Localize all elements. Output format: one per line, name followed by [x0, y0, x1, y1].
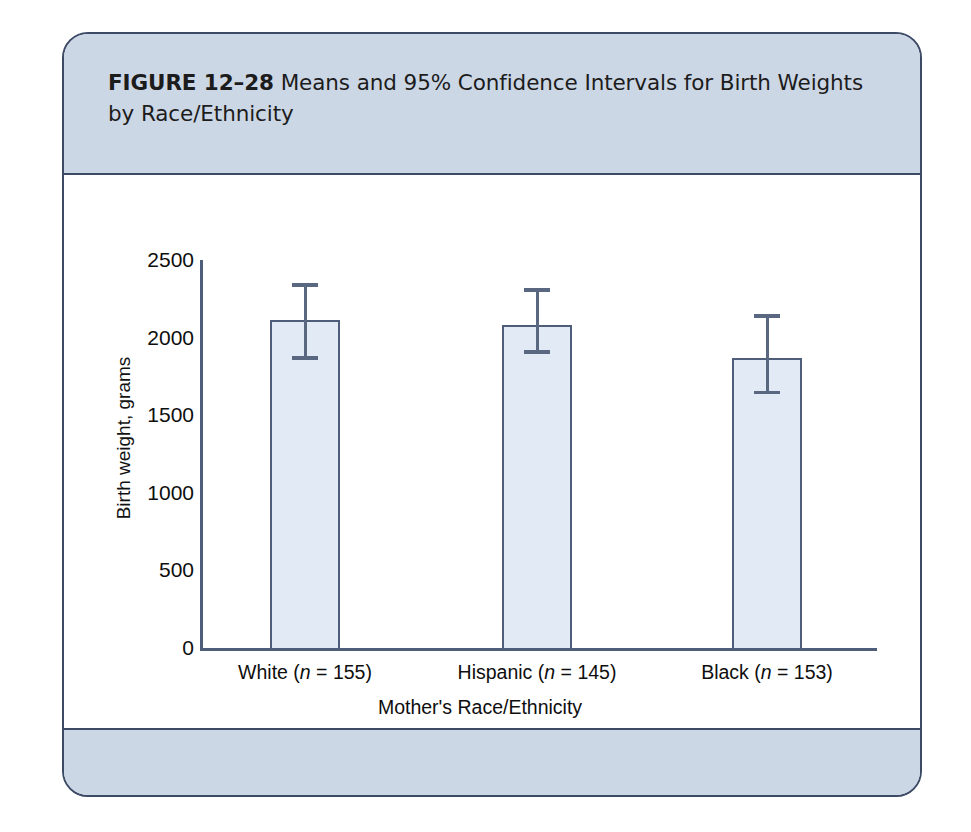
error-bar-cap-upper-black — [754, 314, 780, 318]
y-axis-line — [200, 260, 203, 650]
error-bar-line-black — [766, 315, 769, 392]
y-tick-500: 500 — [124, 558, 194, 582]
x-tick-label-white-paren-open: ( — [288, 661, 300, 683]
x-axis-label: Mother's Race/Ethnicity — [378, 696, 582, 718]
chart-plot-region: Birth weight, grams 2500 2000 1500 1000 … — [64, 175, 920, 730]
bar-hispanic[interactable] — [502, 325, 572, 648]
x-tick-label-white-n: n — [300, 661, 311, 683]
y-tick-1000: 1000 — [124, 481, 194, 505]
x-tick-label-white: White (n = 155) — [238, 661, 372, 684]
x-tick-label-hispanic-paren-open: ( — [532, 661, 544, 683]
bar-black[interactable] — [732, 358, 802, 648]
x-axis-label-wrapper: Mother's Race/Ethnicity — [64, 696, 920, 719]
x-tick-label-hispanic-n-value: = 145) — [555, 661, 616, 683]
figure-number-label: FIGURE 12–28 — [108, 70, 274, 95]
bar-white[interactable] — [270, 320, 340, 648]
y-tick-2500: 2500 — [124, 248, 194, 272]
x-tick-label-white-name: White — [238, 661, 288, 683]
error-bar-line-hispanic — [536, 290, 539, 353]
y-axis-tick-labels: 2500 2000 1500 1000 500 0 — [122, 175, 194, 730]
error-bar-cap-upper-white — [292, 283, 318, 287]
x-tick-label-hispanic: Hispanic (n = 145) — [458, 661, 617, 684]
x-tick-label-black-paren-open: ( — [749, 661, 761, 683]
y-tick-2000: 2000 — [124, 326, 194, 350]
x-axis-line — [200, 648, 877, 651]
x-tick-label-hispanic-n: n — [544, 661, 555, 683]
x-tick-label-hispanic-name: Hispanic — [458, 661, 533, 683]
error-bar-cap-upper-hispanic — [524, 288, 550, 292]
error-bar-line-white — [304, 285, 307, 359]
figure-caption-band: FIGURE 12–28 Means and 95% Confidence In… — [64, 34, 920, 175]
y-tick-1500: 1500 — [124, 403, 194, 427]
y-tick-0: 0 — [124, 636, 194, 660]
error-bar-cap-lower-black — [754, 391, 780, 395]
error-bar-cap-lower-hispanic — [524, 350, 550, 354]
error-bar-cap-lower-white — [292, 356, 318, 360]
x-tick-label-white-n-value: = 155) — [311, 661, 372, 683]
figure-footer-band — [64, 728, 920, 795]
x-tick-label-black: Black (n = 153) — [701, 661, 833, 684]
figure-caption: FIGURE 12–28 Means and 95% Confidence In… — [108, 68, 876, 129]
x-tick-label-black-n-value: = 153) — [772, 661, 833, 683]
figure-frame: FIGURE 12–28 Means and 95% Confidence In… — [62, 32, 922, 797]
x-tick-label-black-name: Black — [701, 661, 749, 683]
x-tick-label-black-n: n — [761, 661, 772, 683]
